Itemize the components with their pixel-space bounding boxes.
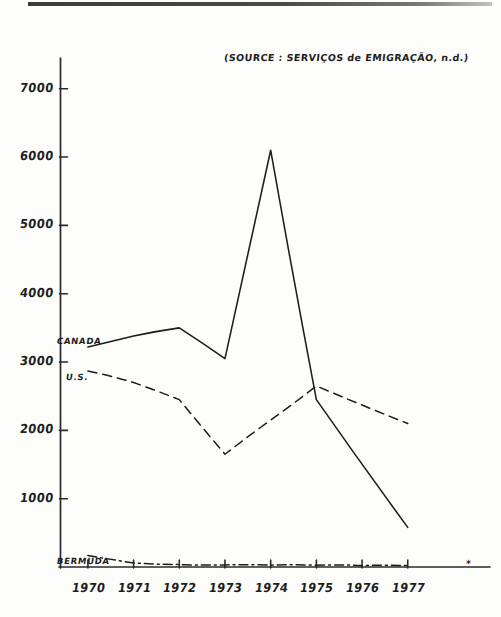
series-label-us: U.S. <box>65 372 89 382</box>
x-tick-label: 1973 <box>208 580 244 595</box>
y-tick-label: 7000 <box>19 80 54 95</box>
x-tick-label: 1974 <box>253 580 289 595</box>
line-chart-canvas <box>0 0 501 617</box>
x-tick-label: 1977 <box>391 580 427 595</box>
source-annotation: (SOURCE : SERVIÇOS de EMIGRAÇÃO, n.d.) <box>223 52 469 63</box>
x-tick-label: 1975 <box>299 580 335 595</box>
series-line-canada <box>88 150 408 527</box>
x-tick-label: 1970 <box>71 580 107 595</box>
y-tick-label: 2000 <box>19 422 54 437</box>
y-tick-label: 6000 <box>19 149 54 164</box>
series-label-canada: CANADA <box>56 336 102 346</box>
series-paths-group <box>88 150 408 565</box>
series-line-bermuda <box>88 555 408 565</box>
x-tick-label: 1976 <box>345 580 381 595</box>
series-label-bermuda: BERMUDA <box>56 556 110 566</box>
y-tick-label: 1000 <box>19 490 54 505</box>
y-tick-label: 3000 <box>19 353 54 368</box>
chart-page: 1000200030004000500060007000 19701971197… <box>0 0 501 617</box>
axes-group <box>59 58 490 568</box>
series-line-us <box>88 371 408 454</box>
y-tick-label: 4000 <box>19 285 54 300</box>
y-tick-label: 5000 <box>19 217 54 232</box>
x-tick-label: 1972 <box>162 580 198 595</box>
x-tick-label: 1971 <box>116 580 152 595</box>
